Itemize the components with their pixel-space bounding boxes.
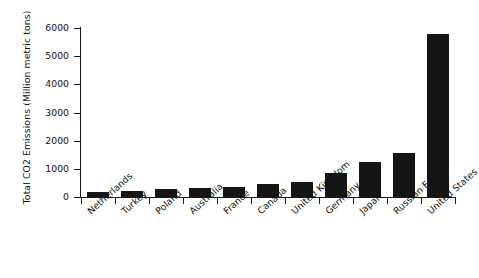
x-axis-label: United Kingdom (289, 158, 352, 216)
x-axis-label: France (221, 187, 251, 216)
x-axis-label: Japan (357, 191, 384, 216)
x-axis-label: Canada (255, 184, 289, 216)
x-axis-label: Turkey (119, 188, 149, 216)
x-axis-label: Australia (187, 181, 225, 217)
x-axis-label: Poland (153, 187, 183, 216)
